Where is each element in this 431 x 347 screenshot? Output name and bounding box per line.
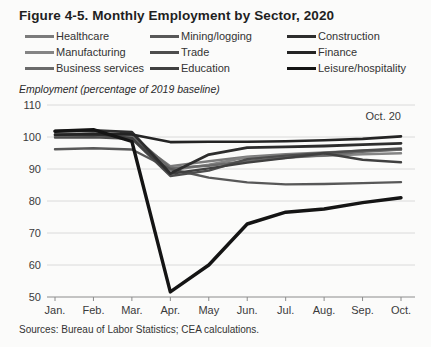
x-tick-label-0: Jan.: [45, 304, 66, 316]
figure-4-5: Figure 4-5. Monthly Employment by Sector…: [0, 0, 431, 347]
x-tick-label-7: Aug.: [313, 304, 336, 316]
legend-swatch-manufacturing: [25, 51, 54, 54]
legend-swatch-education: [150, 67, 179, 70]
legend-label-trade: Trade: [181, 46, 209, 58]
x-tick-label-5: Jun.: [237, 304, 258, 316]
annotation-oct-20: Oct. 20: [366, 110, 401, 122]
y-tick-label-60: 60: [29, 259, 41, 271]
legend-label-education: Education: [181, 62, 230, 74]
chart-legend: HealthcareManufacturingBusiness services…: [25, 30, 429, 74]
legend-label-business-services: Business services: [56, 62, 144, 74]
legend-item-trade: Trade: [150, 46, 287, 58]
y-tick-label-110: 110: [23, 99, 41, 111]
y-tick-label-100: 100: [23, 131, 41, 143]
legend-swatch-healthcare: [25, 35, 54, 38]
legend-item-education: Education: [150, 62, 287, 74]
legend-swatch-construction: [287, 35, 316, 38]
legend-swatch-mining-logging: [150, 35, 179, 38]
y-tick-label-70: 70: [29, 227, 41, 239]
legend-label-manufacturing: Manufacturing: [56, 46, 126, 58]
figure-title: Figure 4-5. Monthly Employment by Sector…: [0, 0, 431, 23]
legend-item-leisure-hospitality: Leisure/hospitality: [287, 62, 429, 74]
legend-item-healthcare: Healthcare: [25, 30, 150, 42]
legend-label-healthcare: Healthcare: [56, 30, 109, 42]
legend-item-mining-logging: Mining/logging: [150, 30, 287, 42]
y-axis-unit-label: Employment (percentage of 2019 baseline): [19, 83, 431, 95]
y-tick-label-80: 80: [29, 195, 41, 207]
legend-label-mining-logging: Mining/logging: [181, 30, 252, 42]
x-tick-label-9: Oct.: [391, 304, 411, 316]
legend-item-manufacturing: Manufacturing: [25, 46, 150, 58]
x-tick-label-4: May: [198, 304, 219, 316]
legend-swatch-leisure-hospitality: [287, 67, 316, 70]
legend-label-construction: Construction: [318, 30, 380, 42]
chart-area: 1101009080706050Jan.Feb.Mar.Apr.MayJun.J…: [0, 97, 431, 323]
x-tick-label-2: Mar.: [121, 304, 142, 316]
employment-line-chart: 1101009080706050Jan.Feb.Mar.Apr.MayJun.J…: [0, 97, 431, 323]
legend-item-construction: Construction: [287, 30, 429, 42]
legend-label-finance: Finance: [318, 46, 357, 58]
legend-label-leisure-hospitality: Leisure/hospitality: [318, 62, 406, 74]
x-tick-label-3: Apr.: [161, 304, 181, 316]
legend-item-business-services: Business services: [25, 62, 150, 74]
x-tick-label-1: Feb.: [82, 304, 104, 316]
legend-swatch-business-services: [25, 67, 54, 70]
legend-swatch-finance: [287, 51, 316, 54]
legend-item-finance: Finance: [287, 46, 429, 58]
y-tick-label-90: 90: [29, 163, 41, 175]
legend-swatch-trade: [150, 51, 179, 54]
sources-note: Sources: Bureau of Labor Statistics; CEA…: [19, 324, 431, 335]
x-tick-label-6: Jul.: [277, 304, 294, 316]
x-tick-label-8: Sep.: [351, 304, 374, 316]
y-tick-label-50: 50: [29, 291, 41, 303]
